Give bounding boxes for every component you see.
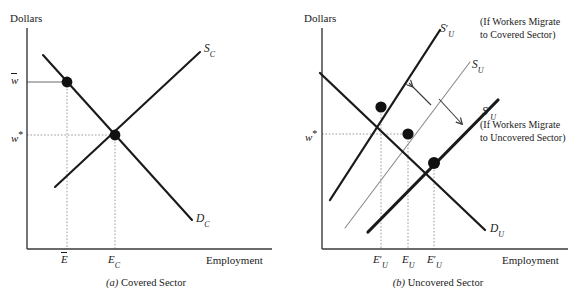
note-covered-migration-line1: (If Workers Migrate	[480, 16, 560, 29]
curve-label-supply-covered-text: S	[204, 42, 210, 54]
caption-letter-uncovered: (b)	[393, 277, 405, 288]
point-equilibrium-shift-down	[428, 157, 440, 169]
caption-text-uncovered: Uncovered Sector	[408, 277, 484, 288]
note-covered-migration-line2: to Covered Sector)	[480, 29, 560, 42]
curve-label-supply-covered: SC	[204, 42, 215, 58]
point-minimum-wage	[62, 77, 73, 88]
arrow-down-right-uncovered	[439, 99, 462, 124]
curve-demand-uncovered	[320, 73, 485, 230]
x-tick-ebar-covered: E	[61, 253, 68, 266]
curve-label-supply-shift-up: S′U	[440, 22, 454, 38]
panel-covered-sector: Dollars Employment w w* E EC SC DC (a)	[0, 0, 292, 298]
caption-text-covered: Covered Sector	[121, 277, 186, 288]
point-competitive-equilibrium	[110, 130, 121, 141]
y-axis-title-uncovered: Dollars	[304, 12, 336, 25]
y-tick-wstar-uncovered: w*	[305, 127, 317, 144]
panel-uncovered-sector: Dollars Employment w* E′U EU E′U S′U (If…	[292, 0, 584, 298]
curve-label-supply-original-text: S	[472, 58, 478, 70]
curve-label-demand-covered-sub: C	[204, 220, 209, 229]
figure-root: Dollars Employment w w* E EC SC DC (a)	[0, 0, 584, 298]
x-tick-eu-prime-right-sub: U	[436, 261, 442, 270]
curve-label-supply-original: SU	[472, 58, 484, 74]
note-uncovered-migration-line2: to Uncovered Sector)	[480, 132, 566, 145]
x-tick-eu-sub: U	[409, 261, 415, 270]
guide-lines-covered	[27, 82, 115, 249]
y-tick-wstar-covered: w*	[11, 128, 23, 145]
x-tick-ec-covered: EC	[108, 253, 120, 269]
curve-label-demand-uncovered-sub: U	[498, 230, 504, 239]
note-uncovered-migration: (If Workers Migrate to Uncovered Sector)	[480, 119, 566, 144]
y-tick-wbar-covered: w	[11, 74, 18, 87]
caption-letter-covered: (a)	[106, 277, 118, 288]
y-tick-wbar-text: w	[11, 74, 18, 86]
x-tick-eu-uncovered: EU	[402, 253, 415, 269]
caption-uncovered-sector: (b) Uncovered Sector	[292, 277, 584, 289]
caption-covered-sector: (a) Covered Sector	[0, 277, 292, 289]
curve-supply-covered	[55, 52, 200, 187]
x-axis-title-covered: Employment	[206, 254, 263, 267]
x-tick-eu-text: E	[402, 253, 409, 265]
x-tick-eu-prime-right-text: E	[427, 253, 434, 265]
x-tick-ec-text: E	[108, 253, 115, 265]
note-covered-migration: (If Workers Migrate to Covered Sector)	[480, 16, 560, 41]
point-equilibrium-original	[402, 128, 413, 139]
curve-label-demand-uncovered: DU	[490, 222, 504, 238]
point-equilibrium-shift-up	[375, 101, 386, 112]
curve-label-supply-shift-up-sub: U	[448, 30, 454, 39]
x-tick-eu-prime-left-sub: U	[382, 261, 388, 270]
y-axis-title-covered: Dollars	[10, 12, 42, 25]
curve-label-supply-original-sub: U	[478, 66, 484, 75]
x-axis-title-uncovered: Employment	[502, 254, 559, 267]
x-tick-eu-prime-left-uncovered: E′U	[373, 253, 388, 269]
x-tick-eu-prime-right-uncovered: E′U	[427, 253, 442, 269]
curve-label-demand-covered: DC	[196, 212, 210, 228]
arrow-up-left-uncovered	[409, 83, 431, 105]
x-tick-eu-prime-left-text: E	[373, 253, 380, 265]
x-tick-ec-sub: C	[115, 261, 120, 270]
note-uncovered-migration-line1: (If Workers Migrate	[480, 119, 566, 132]
axes-covered	[27, 28, 272, 249]
curve-label-supply-covered-sub: C	[210, 50, 215, 59]
x-tick-ebar-text: E	[61, 253, 68, 265]
